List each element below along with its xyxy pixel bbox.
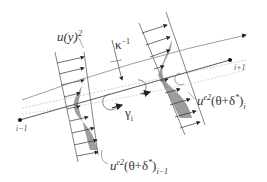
node-next — [228, 58, 232, 62]
streamline-upper — [22, 35, 246, 100]
momentum-left-label: ue2(θ+δ*)i−1 — [110, 159, 168, 176]
node-prev-label: i−1 — [16, 125, 28, 133]
node-prev — [18, 118, 22, 122]
left-deficit-shading — [74, 75, 98, 150]
left-velocity-arrows — [57, 57, 98, 156]
node-next-label: i+1 — [234, 64, 246, 72]
u-profile-label: u(y)2 — [57, 30, 82, 43]
curvature-label: κ−1 — [115, 38, 130, 51]
diagram-canvas — [0, 0, 267, 182]
vortex-mid-icon — [138, 80, 146, 94]
momentum-right-label: ue2(θ+δ*)i — [197, 94, 246, 111]
gamma-label: γi — [125, 106, 133, 123]
